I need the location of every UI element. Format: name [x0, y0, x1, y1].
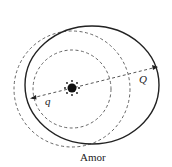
- asteroid-orbit: [25, 26, 159, 144]
- caption: Amor: [80, 151, 106, 163]
- sun-icon: [64, 80, 80, 96]
- amor-orbit-diagram: q Q Amor: [0, 0, 172, 167]
- aphelion-label: Q: [139, 73, 147, 85]
- perihelion-label: q: [45, 95, 51, 107]
